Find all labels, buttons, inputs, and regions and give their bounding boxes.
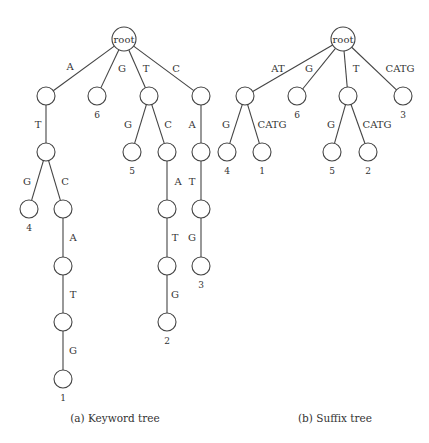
sf-leaf-index: 1 <box>259 166 265 176</box>
kw-node-t <box>140 87 158 105</box>
sf-node-atcatg <box>253 143 271 161</box>
kw-leaf-index: 2 <box>164 336 170 346</box>
kw-edge-label: A <box>173 176 182 187</box>
kw-node-c <box>192 87 210 105</box>
kw-edge-label: T <box>172 232 179 243</box>
sf-edge-label: CATG <box>258 119 287 130</box>
kw-leaf-index: 3 <box>198 280 204 290</box>
kw-edge-label: T <box>143 63 150 74</box>
kw-edge-label: G <box>69 345 77 356</box>
sf-node-t <box>339 87 357 105</box>
sf-edge-label: CATG <box>386 63 415 74</box>
kw-node-a <box>37 87 55 105</box>
caption-suffix-tree: (b) Suffix tree <box>298 412 372 424</box>
kw-edge-label: T <box>189 176 196 187</box>
sf-node-atg <box>218 143 236 161</box>
kw-node-tca <box>158 200 176 218</box>
sf-leaf-index: 2 <box>365 166 371 176</box>
kw-leaf-index: 5 <box>129 166 135 176</box>
sf-edge-label: AT <box>270 63 285 74</box>
kw-node-ca <box>192 143 210 161</box>
kw-edge-at-atg <box>32 161 44 201</box>
kw-edge-label: G <box>188 232 196 243</box>
sf-edge-label: T <box>353 63 360 74</box>
kw-node-atg <box>20 200 38 218</box>
kw-node-catg <box>192 257 210 275</box>
sf-root-label: root <box>333 34 354 45</box>
caption-keyword-tree: (a) Keyword tree <box>70 412 160 424</box>
kw-edge-label: C <box>164 119 172 130</box>
kw-node-atcat <box>54 313 72 331</box>
sf-node-at <box>236 87 254 105</box>
sf-edge-label: G <box>222 119 230 130</box>
figure-canvas: AGTCTGCAGCATATGTGGroot654321 ATGTCATGGCA… <box>0 0 429 443</box>
keyword-tree: AGTCTGCAGCATATGTGGroot654321 <box>20 27 210 403</box>
sf-leaf-index: 5 <box>329 166 335 176</box>
sf-edge-label: CATG <box>363 119 392 130</box>
kw-node-cat <box>192 200 210 218</box>
sf-node-g <box>288 87 306 105</box>
kw-edge-label: A <box>68 232 77 243</box>
kw-edge-t-tg <box>135 105 147 144</box>
kw-edge-label: A <box>187 119 196 130</box>
kw-edge-t-tc <box>152 105 164 144</box>
kw-node-tcatg <box>158 313 176 331</box>
suffix-tree: ATGTCATGGCATGGCATGroot634152 <box>218 27 415 176</box>
sf-edge-t-tg <box>334 105 345 144</box>
kw-edge-at-atc <box>49 161 61 201</box>
kw-edge-label: C <box>172 63 180 74</box>
kw-node-g <box>88 87 106 105</box>
kw-leaf-index: 6 <box>94 110 100 120</box>
kw-edge-label: G <box>171 289 179 300</box>
sf-edge-label: G <box>305 63 313 74</box>
sf-edge-r-t <box>344 51 347 87</box>
kw-node-atca <box>54 257 72 275</box>
kw-edge-label: C <box>61 176 69 187</box>
sf-leaf-index: 3 <box>400 110 406 120</box>
sf-edge-r-at <box>253 45 333 91</box>
kw-leaf-index: 4 <box>26 223 32 233</box>
kw-node-at <box>37 143 55 161</box>
sf-node-tg <box>323 143 341 161</box>
kw-edge-label: A <box>65 61 74 72</box>
kw-leaf-index: 1 <box>60 393 66 403</box>
kw-edge-label: G <box>23 176 31 187</box>
kw-edge-r-g <box>101 50 119 88</box>
sf-edge-label: G <box>327 119 335 130</box>
kw-node-tcat <box>158 257 176 275</box>
sf-node-catg <box>394 87 412 105</box>
kw-node-tc <box>158 143 176 161</box>
kw-node-atc <box>54 200 72 218</box>
kw-edge-label: T <box>35 119 42 130</box>
kw-root-label: root <box>114 34 135 45</box>
sf-leaf-index: 4 <box>224 166 230 176</box>
kw-edge-label: T <box>70 289 77 300</box>
kw-node-atcatg <box>54 370 72 388</box>
kw-edge-label: G <box>124 119 132 130</box>
kw-edge-label: G <box>118 63 126 74</box>
sf-edge-at-atg <box>230 105 242 144</box>
kw-edge-r-a <box>53 46 114 91</box>
kw-node-tg <box>123 143 141 161</box>
sf-node-tcatg <box>359 143 377 161</box>
sf-leaf-index: 6 <box>294 110 300 120</box>
